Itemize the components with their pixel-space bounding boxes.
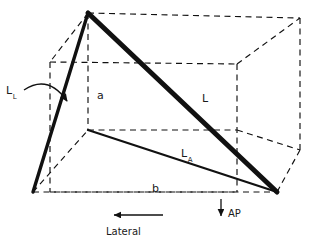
label-edge-a: a — [97, 90, 104, 101]
label-vector-LA: LA — [181, 148, 192, 162]
edge-top-right-slant — [237, 18, 300, 64]
label-vector-L: L — [202, 93, 208, 104]
label-vector-LA-base: L — [181, 147, 187, 160]
edge-mid-right-slant — [237, 130, 300, 150]
label-axis-ap: AP — [228, 209, 241, 219]
edge-top-front — [88, 13, 300, 18]
box-wireframe — [33, 13, 300, 192]
edge-bottom-right-slant — [277, 150, 300, 192]
label-vector-LA-subscript: A — [188, 156, 193, 164]
edge-top-left-slant — [50, 13, 88, 62]
vector-L-lateral — [33, 13, 88, 192]
vector-L — [88, 13, 277, 192]
label-vector-LL: LL — [6, 85, 16, 99]
box-diagram-svg — [0, 0, 329, 248]
figure-container: a b L LA LL AP Lateral — [0, 0, 329, 248]
label-vector-LL-base: L — [6, 84, 12, 97]
label-edge-b: b — [152, 183, 159, 194]
label-vector-LL-subscript: L — [13, 93, 17, 101]
label-axis-lateral: Lateral — [106, 227, 141, 237]
